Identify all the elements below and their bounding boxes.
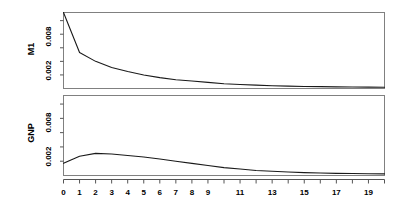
panel-frame-gnp: [64, 96, 385, 176]
y-tick-label-m1-lower: 0.002: [44, 54, 53, 88]
x-axis-ticks: [64, 180, 385, 184]
x-tick-label: 9: [196, 188, 220, 197]
y-tick-label-m1-upper: 0.008: [44, 20, 53, 54]
y-axis-title-gnp: GNP: [26, 115, 36, 151]
series-line-m1: [64, 13, 385, 88]
y-tick-label-gnp-upper: 0.008: [44, 106, 53, 140]
y-axis-ticks-gnp: [60, 104, 64, 161]
y-tick-label-gnp-lower: 0.002: [44, 140, 53, 174]
x-tick-label: 15: [292, 188, 316, 197]
impulse-response-figure: M1 GNP 0.002 0.008 0.002 0.008 012345678…: [0, 0, 399, 211]
x-tick-label: 11: [228, 188, 252, 197]
x-axis: [64, 180, 385, 184]
y-axis-title-m1: M1: [26, 34, 36, 64]
y-axis-ticks-m1: [60, 21, 64, 75]
x-tick-label: 13: [260, 188, 284, 197]
panel-frame-m1: [64, 13, 385, 89]
chart-canvas: [0, 0, 399, 211]
x-tick-label: 19: [356, 188, 380, 197]
series-line-gnp: [64, 153, 385, 174]
x-tick-label: 17: [324, 188, 348, 197]
